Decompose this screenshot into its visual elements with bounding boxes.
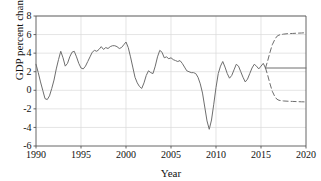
svg-text:-2: -2 (23, 103, 31, 114)
gdp-percent-change-chart: -6-4-202468 1990199520002005201020152020… (0, 0, 321, 181)
svg-text:2: 2 (27, 66, 32, 77)
grid-lines (36, 16, 306, 146)
x-axis-title-text: Year (161, 167, 181, 179)
svg-text:2000: 2000 (116, 149, 136, 160)
svg-text:2010: 2010 (206, 149, 226, 160)
forecast-lower-bound (266, 68, 307, 102)
svg-text:1990: 1990 (26, 149, 46, 160)
axis-tick-marks (34, 16, 307, 149)
x-axis-title: Year (35, 163, 307, 181)
forecast-upper-bound (266, 33, 307, 68)
svg-text:1995: 1995 (71, 149, 91, 160)
svg-text:2005: 2005 (161, 149, 181, 160)
svg-text:-4: -4 (23, 122, 31, 133)
svg-text:2020: 2020 (296, 149, 316, 160)
svg-text:4: 4 (27, 47, 32, 58)
historical-gdp-percent-change (36, 42, 266, 129)
y-axis-title-text: GDP percent change (13, 0, 25, 80)
svg-text:2015: 2015 (251, 149, 271, 160)
svg-text:8: 8 (27, 10, 32, 21)
y-axis-title: GDP percent change (9, 0, 23, 95)
x-axis-tick-labels: 1990199520002005201020152020 (26, 149, 316, 160)
plot-area: -6-4-202468 1990199520002005201020152020 (0, 0, 321, 181)
svg-text:0: 0 (27, 84, 32, 95)
svg-text:6: 6 (27, 29, 32, 40)
